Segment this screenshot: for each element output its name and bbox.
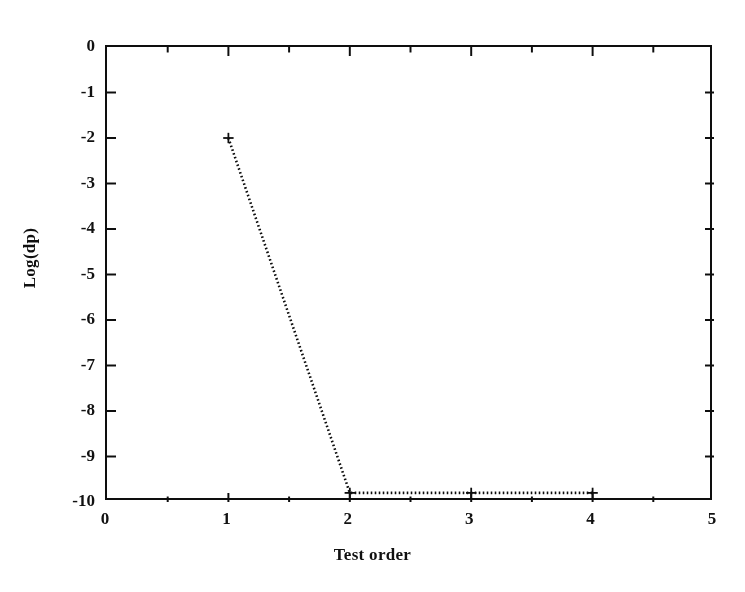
data-point-marker: [223, 133, 233, 143]
data-point-marker: [587, 488, 597, 498]
x-axis-minor-ticks: [168, 497, 654, 503]
y-tick-label: -5: [39, 264, 95, 281]
y-tick-label: -10: [39, 492, 95, 509]
x-tick-label: 3: [465, 510, 474, 527]
y-tick-label: -8: [39, 401, 95, 418]
x-axis-title: Test order: [0, 545, 745, 565]
plot-area: [105, 45, 712, 500]
y-tick-label: -9: [39, 446, 95, 463]
y-tick-label: -4: [39, 219, 95, 236]
data-point-markers: [223, 133, 598, 498]
y-axis-title: Log(dp): [20, 198, 40, 318]
data-series-line: [228, 138, 592, 493]
x-tick-label: 2: [344, 510, 353, 527]
y-tick-label: 0: [39, 37, 95, 54]
y-tick-label: -2: [39, 128, 95, 145]
y-axis-right-ticks: [705, 93, 714, 457]
series-line: [228, 138, 592, 493]
y-tick-label: -1: [39, 82, 95, 99]
x-tick-label: 0: [101, 510, 110, 527]
y-tick-label: -3: [39, 173, 95, 190]
data-point-marker: [345, 488, 355, 498]
x-tick-label: 5: [708, 510, 717, 527]
y-tick-label: -6: [39, 310, 95, 327]
y-tick-label: -7: [39, 355, 95, 372]
figure-canvas: 012345 0-1-2-3-4-5-6-7-8-9-10 Test order…: [0, 0, 745, 592]
plot-svg: [107, 47, 714, 502]
x-tick-label: 1: [222, 510, 231, 527]
x-tick-label: 4: [586, 510, 595, 527]
x-axis-top-minor-ticks: [168, 47, 654, 53]
y-axis-left-ticks: [107, 93, 116, 457]
data-point-marker: [466, 488, 476, 498]
